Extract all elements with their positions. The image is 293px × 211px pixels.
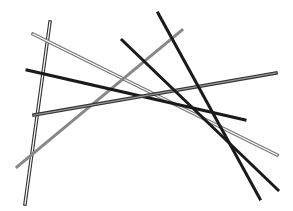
line-black-diagonal-2: [158, 13, 260, 199]
line-drawing-canvas: [0, 0, 293, 211]
line-black-diagonal-1: [122, 40, 278, 190]
